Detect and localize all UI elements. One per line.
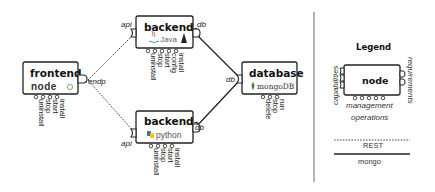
node-database[interactable]: database mongoDB db run stop delete (226, 62, 304, 119)
capability-label-db: db (226, 75, 235, 84)
requirement-port-icon[interactable] (78, 75, 87, 83)
node-backend2[interactable]: backend2 python api db install start sto… (121, 111, 204, 176)
operation-port-icon (353, 96, 357, 100)
capability-port-icon (340, 68, 344, 74)
legend-rest-label: REST (363, 141, 383, 150)
operation-label: uninstall (152, 148, 161, 176)
management-operations: run stop delete (261, 95, 286, 119)
capability-label-api: api (121, 139, 132, 148)
legend: Legend node capabilities requirements ma… (331, 42, 415, 166)
management-operations: install start stop uninstall (149, 144, 181, 176)
requirement-port-icon[interactable] (193, 29, 200, 37)
management-operations: install config start stop uninstall (146, 49, 185, 81)
capability-port-icon (340, 82, 344, 88)
operation-label: uninstall (37, 99, 46, 127)
mongo-connection-backend1-database (195, 33, 240, 78)
rest-connection-frontend-backend1 (88, 33, 135, 80)
svg-text:mongoDB: mongoDB (257, 82, 295, 91)
mongodb-logo-icon: mongoDB (252, 82, 295, 91)
node-title: frontend (30, 67, 82, 79)
capability-label-api: api (121, 20, 132, 29)
node-title: backend1 (144, 21, 199, 35)
svg-text:node: node (31, 81, 57, 92)
requirement-label-db: db (195, 123, 204, 132)
legend-node-label: node (362, 75, 389, 86)
legend-operation-ports (353, 96, 385, 100)
capability-port-icon[interactable] (237, 75, 242, 83)
operation-port-icon (381, 96, 385, 100)
requirement-label-db: db (197, 20, 206, 29)
operation-port-icon (367, 96, 371, 100)
management-operations: install start stop uninstall (34, 95, 66, 127)
node-title: backend2 (144, 115, 199, 129)
legend-operations-label: operations (351, 113, 388, 122)
legend-management-label: management (346, 101, 393, 110)
operation-port-icon (374, 96, 378, 100)
node-title: database (249, 67, 304, 79)
requirement-label-endp: endp (88, 77, 106, 86)
capability-port-icon[interactable] (131, 29, 136, 37)
requirement-port-icon (400, 71, 405, 77)
legend-title: Legend (356, 42, 391, 52)
node-backend1[interactable]: backend1 Java api db install config star… (121, 16, 206, 81)
legend-capability-ports (340, 68, 344, 88)
svg-text:python: python (156, 130, 182, 140)
svg-text:Java: Java (160, 35, 177, 44)
mongo-connection-backend2-database (195, 80, 240, 128)
capability-port-icon (340, 75, 344, 81)
legend-mongo-label: mongo (358, 157, 381, 166)
operation-port-icon (360, 96, 364, 100)
legend-capabilities-label: capabilities (331, 65, 340, 105)
operation-label: delete (264, 99, 273, 119)
rest-connection-frontend-backend2 (88, 80, 135, 133)
operation-label: uninstall (149, 53, 158, 81)
legend-requirements-label: requirements (406, 57, 415, 104)
node-frontend[interactable]: frontend node endp install start stop un… (23, 62, 106, 127)
capability-port-icon[interactable] (131, 129, 136, 137)
requirement-port-icon (400, 79, 405, 85)
legend-requirement-ports (400, 71, 405, 85)
